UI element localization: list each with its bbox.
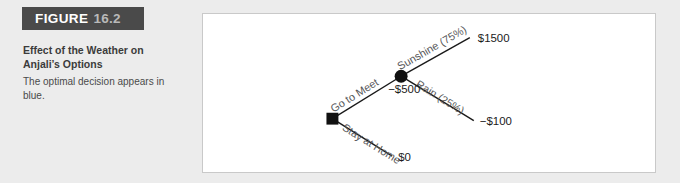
figure-title: Effect of the Weather on Anjali’s Option…: [23, 43, 183, 71]
branch-label-go-to-meet: Go to Meet: [328, 76, 380, 115]
decision-tree-panel: Go to Meet Stay at Home Sunshine (75%) R…: [202, 13, 656, 173]
branch-label-sunshine: Sunshine (75%): [395, 23, 468, 72]
decision-tree-svg: Go to Meet Stay at Home Sunshine (75%) R…: [203, 14, 655, 172]
figure-banner: FIGURE 16.2: [22, 7, 144, 30]
figure-subtitle: The optimal decision appears in blue.: [23, 75, 188, 103]
figure-banner-word: FIGURE: [35, 11, 88, 26]
payoff-label-sunshine: $1500: [478, 32, 510, 44]
cost-label-go-to-meet: −$500: [388, 83, 420, 95]
branch-label-rain: Rain (25%): [414, 78, 467, 117]
decision-node-square: [326, 113, 338, 125]
branch-label-stay-at-home: Stay at Home: [340, 121, 403, 166]
payoff-label-rain: −$100: [480, 115, 512, 127]
figure-caption-column: FIGURE 16.2 Effect of the Weather on Anj…: [0, 0, 200, 183]
payoff-label-stay-at-home: $0: [398, 151, 411, 163]
figure-banner-number: 16.2: [93, 11, 120, 26]
